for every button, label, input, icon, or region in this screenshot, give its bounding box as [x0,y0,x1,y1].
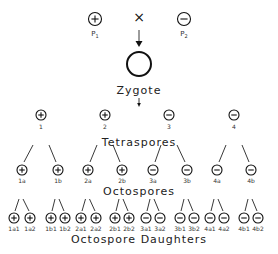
parent-2-label: P2 [180,31,187,39]
daughter-2b1-label: 2b1 [109,226,120,232]
tetraspores-label: Tetraspores [102,137,176,148]
octospore-2a-icon [83,165,93,175]
daughter-4a2-icon [219,213,229,223]
branch-line [24,145,33,162]
daughter-1b1-label: 1b1 [45,226,56,232]
daughters-label: Octospore Daughters [71,234,207,245]
octospore-4b-label: 4b [247,178,255,184]
branch-line [177,145,185,162]
daughter-2a1-icon [76,213,86,223]
octospore-4a-label: 4a [213,178,221,184]
branch-line [123,199,128,211]
daughter-2b2-label: 2b2 [123,226,134,232]
branch-line [181,199,184,211]
octospore-2b-label: 2b [118,178,126,184]
branch-line [59,199,64,211]
tetraspore-3-label: 3 [167,124,171,130]
branch-line [49,145,56,162]
octospore-3a-label: 3a [149,178,157,184]
daughter-1b1-icon [46,213,56,223]
tetraspore-3-icon [164,110,174,120]
tetraspore-1-label: 1 [39,124,43,130]
octospore-3b-icon [182,165,192,175]
tetraspore-2-label: 2 [103,124,107,130]
parent-1-label: P1 [91,31,98,39]
octospore-2a-label: 2a [84,178,92,184]
daughter-4a1-icon [205,213,215,223]
branch-line [154,199,159,211]
daughter-4b1-icon [239,213,249,223]
daughter-4a1-label: 4a1 [204,226,215,232]
parent-plus-spore-icon [89,13,102,26]
octospores-label: Octospores [103,186,175,197]
parent-minus-spore-icon [178,13,191,26]
octospore-1a-icon [17,165,27,175]
daughter-2a2-icon [91,213,101,223]
arrowhead-icon [136,41,143,47]
daughter-4b2-label: 4b2 [252,226,263,232]
octospore-1b-label: 1b [54,178,62,184]
tetraspore-4-icon [229,110,239,120]
daughter-3b1-icon [175,213,185,223]
tetraspore-1-icon [36,110,46,120]
octospore-3a-icon [148,165,158,175]
daughter-2b1-icon [110,213,120,223]
branch-line [116,199,119,211]
branch-line [90,145,97,162]
daughter-1a1-icon [9,213,19,223]
branch-line [218,199,223,211]
daughter-3a2-label: 3a2 [154,226,165,232]
tetraspore-2-icon [100,110,110,120]
tetraspore-4-label: 4 [232,124,236,130]
cross-symbol: × [133,10,145,24]
daughter-1b2-label: 1b2 [59,226,70,232]
daughter-2b2-icon [124,213,134,223]
daughter-1b2-icon [60,213,70,223]
octospore-3b-label: 3b [183,178,191,184]
branch-line [245,199,248,211]
arrowhead-icon [137,103,141,107]
daughter-4b2-icon [253,213,263,223]
branch-line [252,199,257,211]
octospore-4a-icon [212,165,222,175]
branch-line [52,199,55,211]
daughter-2a1-label: 2a1 [75,226,86,232]
branch-line [90,199,96,211]
daughter-4b1-label: 4b1 [238,226,249,232]
branch-line [188,199,193,211]
daughter-3b2-icon [189,213,199,223]
daughter-3b1-label: 3b1 [174,226,185,232]
zygote-label: Zygote [117,85,162,96]
daughter-3a1-icon [141,213,151,223]
octospore-1a-label: 1a [18,178,26,184]
branch-line [15,199,19,211]
zygote-circle [127,52,151,76]
branch-line [242,145,249,162]
octospore-2b-icon [117,165,127,175]
daughter-2a2-label: 2a2 [90,226,101,232]
daughter-4a2-label: 4a2 [218,226,229,232]
daughter-1a1-label: 1a1 [8,226,19,232]
octospore-1b-icon [53,165,63,175]
daughter-1a2-label: 1a2 [24,226,35,232]
daughter-3a1-label: 3a1 [140,226,151,232]
branch-line [219,145,226,162]
branch-line [82,199,86,211]
daughter-3b2-label: 3b2 [188,226,199,232]
daughter-3a2-icon [155,213,165,223]
daughter-1a2-icon [25,213,35,223]
octospore-4b-icon [246,165,256,175]
branch-line [211,199,214,211]
branch-line [147,199,150,211]
branch-line [23,199,29,211]
